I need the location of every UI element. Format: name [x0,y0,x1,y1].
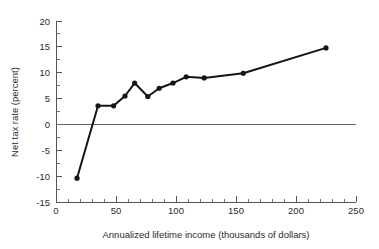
y-tick-label: -10 [36,171,50,182]
data-point [323,45,328,50]
x-tick-label: 50 [111,205,122,216]
data-point [170,80,175,85]
data-point [74,176,79,181]
data-point [111,103,116,108]
data-point [241,71,246,76]
x-tick-label: 200 [288,205,304,216]
data-point [202,75,207,80]
y-axis-ticks [56,21,62,202]
data-point [157,86,162,91]
x-tick-label: 250 [348,205,364,216]
x-axis-title: Annualized lifetime income (thousands of… [103,229,310,240]
x-tick-label: 0 [53,205,58,216]
x-tick-label: 150 [228,205,244,216]
y-tick-label: -15 [36,197,50,208]
y-tick-label: 10 [39,67,50,78]
data-point [132,80,137,85]
y-tick-label: 5 [45,93,50,104]
data-point [145,94,150,99]
data-point [122,93,127,98]
data-series-line [77,48,326,178]
y-axis-tick-labels: -15-10-505101520 [36,16,50,208]
x-axis-ticks [56,196,356,202]
line-chart-plot: -15-10-505101520 050100150200250 Annuali… [0,0,379,249]
y-tick-label: 15 [39,41,50,52]
data-point [95,103,100,108]
chart-figure: -15-10-505101520 050100150200250 Annuali… [0,0,379,249]
y-tick-label: 0 [45,119,50,130]
data-point [184,74,189,79]
y-axis-title: Net tax rate (percent) [9,67,20,157]
y-tick-label: -5 [42,145,50,156]
data-point-markers [74,45,328,181]
x-tick-label: 100 [168,205,184,216]
y-tick-label: 20 [39,16,50,27]
x-axis-tick-labels: 050100150200250 [53,205,364,216]
